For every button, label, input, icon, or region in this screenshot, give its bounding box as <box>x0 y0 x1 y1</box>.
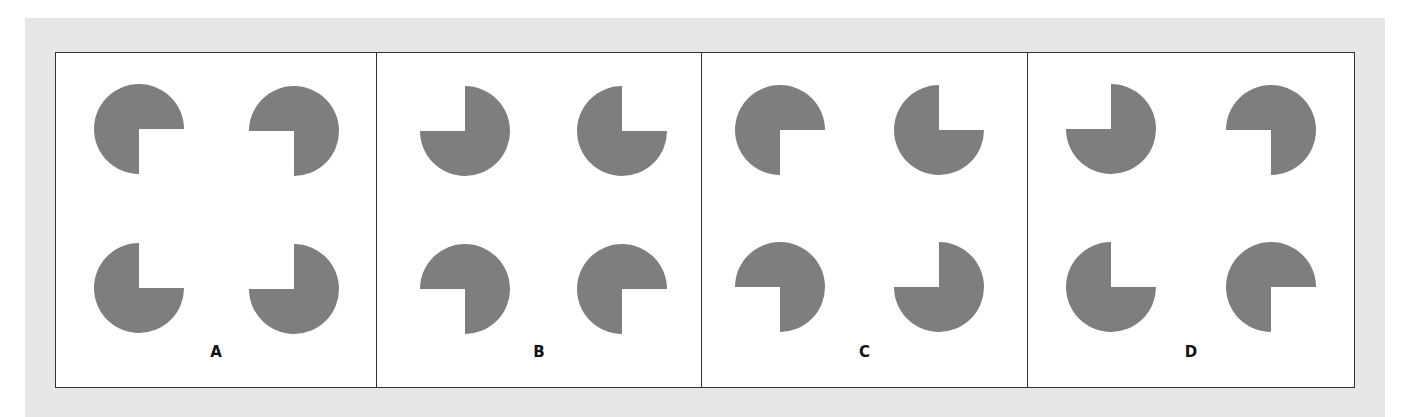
panel-label-d: D <box>1028 343 1354 361</box>
panel-label-a: A <box>56 343 376 361</box>
figure-frame: A B C D <box>55 52 1355 388</box>
pacman-shape-bottom-left <box>1066 242 1156 332</box>
pacman-shape-bottom-right <box>894 242 984 332</box>
pacman-shape-top-right <box>249 86 339 176</box>
pacman-shape-top-left <box>420 86 510 176</box>
pacman-shapes-c <box>702 53 1028 387</box>
pacman-shapes-a <box>56 53 377 387</box>
panel-label-c: C <box>702 343 1027 361</box>
pacman-shape-top-left <box>735 85 825 175</box>
panel-a: A <box>56 53 377 387</box>
pacman-shape-bottom-right <box>1226 242 1316 332</box>
panel-b: B <box>377 53 702 387</box>
panel-label-b: B <box>377 343 701 361</box>
pacman-shape-top-right <box>577 86 667 176</box>
panel-c: C <box>702 53 1028 387</box>
pacman-shape-bottom-left <box>735 242 825 332</box>
pacman-shape-bottom-right <box>249 244 339 334</box>
pacman-shapes-d <box>1028 53 1354 387</box>
pacman-shape-bottom-left <box>94 243 184 333</box>
pacman-shape-bottom-right <box>577 244 667 334</box>
panel-d: D <box>1028 53 1354 387</box>
pacman-shape-top-left <box>94 84 184 174</box>
pacman-shape-bottom-left <box>420 244 510 334</box>
pacman-shape-top-right <box>1226 85 1316 175</box>
pacman-shape-top-right <box>894 85 984 175</box>
pacman-shapes-b <box>377 53 702 387</box>
pacman-shape-top-left <box>1066 84 1156 174</box>
